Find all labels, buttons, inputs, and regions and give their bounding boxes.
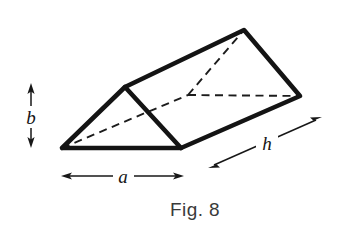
dimension-base-a: a [61, 165, 184, 187]
height-label-b: b [26, 107, 36, 128]
length-arrowhead-upper-right-icon [309, 117, 322, 122]
prism-faces [62, 30, 300, 148]
hidden-edge-back-bottom-to-right [188, 95, 300, 96]
triangular-prism-diagram: b a h Fig. 8 [0, 0, 352, 231]
figure-caption: Fig. 8 [170, 199, 220, 220]
dimension-height-b: b [21, 83, 41, 148]
length-label-h: h [262, 133, 272, 154]
base-label-a: a [118, 166, 128, 187]
figure-container: b a h Fig. 8 [0, 0, 352, 231]
